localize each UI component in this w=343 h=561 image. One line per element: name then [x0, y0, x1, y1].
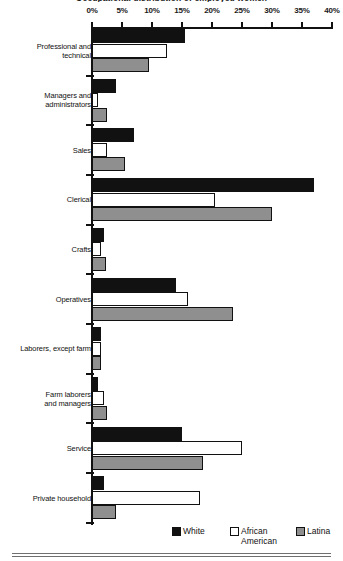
category-axis-tick: [86, 323, 94, 325]
category-label: Laborers, except farm: [1, 344, 91, 353]
category-axis-tick: [86, 522, 94, 524]
x-axis-tick: [271, 22, 273, 29]
legend-swatch-latina: [296, 527, 305, 536]
legend-swatch-aa: [230, 527, 239, 536]
category-label: Service: [1, 444, 91, 453]
x-axis-tick-label: 25%: [234, 6, 249, 15]
legend-item[interactable]: White: [172, 527, 205, 537]
chart-title: Occupational distribution of employed wo…: [0, 0, 343, 2]
legend-item[interactable]: Latina: [296, 527, 330, 537]
bar-white: [92, 476, 104, 490]
x-axis-tick-labels: 0%5%10%15%20%25%30%35%40%: [92, 6, 332, 18]
bar-white: [92, 228, 104, 242]
bar-white: [92, 377, 98, 391]
bar-white: [92, 128, 134, 142]
x-axis-tick: [121, 22, 123, 29]
category-axis-tick: [86, 422, 94, 424]
x-axis-tick: [241, 22, 243, 29]
bar-white: [92, 427, 182, 441]
x-axis-tick-label: 15%: [174, 6, 189, 15]
x-axis-tick-label: 35%: [294, 6, 309, 15]
legend-swatch-white: [172, 527, 181, 536]
x-axis-tick-label: 20%: [204, 6, 219, 15]
bar-aa: [92, 44, 167, 58]
legend-label: African American: [241, 527, 277, 546]
bar-aa: [92, 292, 188, 306]
category-axis-tick: [86, 472, 94, 474]
category-label: Operatives: [1, 295, 91, 304]
bar-white: [92, 278, 176, 292]
bar-group: Private household: [0, 475, 343, 525]
bar-group: Managers andadministrators: [0, 78, 343, 128]
x-axis-tick: [91, 22, 93, 29]
chart-legend: WhiteAfrican AmericanLatina: [172, 527, 340, 555]
x-axis-tick-label: 30%: [264, 6, 279, 15]
bar-aa: [92, 491, 200, 505]
category-axis-tick: [86, 124, 94, 126]
bar-white: [92, 79, 116, 93]
category-axis-tick: [86, 224, 94, 226]
bar-group: Clerical: [0, 177, 343, 227]
bottom-rule-2: [12, 556, 331, 557]
category-label: Private household: [1, 494, 91, 503]
category-axis-tick: [86, 75, 94, 77]
bar-aa: [92, 342, 101, 356]
bar-latina: [92, 58, 149, 72]
category-label: Farm laborersand managers: [1, 390, 91, 408]
bar-white: [92, 327, 101, 341]
x-axis-tick-label: 0%: [86, 6, 97, 15]
bar-group: Service: [0, 426, 343, 476]
x-axis-tick: [151, 22, 153, 29]
bar-group: Crafts: [0, 227, 343, 277]
bar-aa: [92, 441, 242, 455]
x-axis-tick-label: 40%: [324, 6, 339, 15]
bar-latina: [92, 406, 107, 420]
category-label: Crafts: [1, 245, 91, 254]
x-axis-tick: [331, 22, 333, 29]
bar-latina: [92, 257, 106, 271]
bar-latina: [92, 456, 203, 470]
legend-item[interactable]: African American: [230, 527, 277, 546]
bar-aa: [92, 143, 107, 157]
occupational-distribution-chart: Occupational distribution of employed wo…: [0, 0, 343, 561]
category-label: Professional andtechnical: [1, 42, 91, 60]
x-axis-tick-label: 5%: [116, 6, 127, 15]
x-axis-tick-label: 10%: [144, 6, 159, 15]
category-axis-tick: [86, 174, 94, 176]
bottom-rule-1: [12, 553, 331, 554]
bar-white: [92, 29, 185, 43]
category-label: Managers andadministrators: [1, 91, 91, 109]
bar-group: Laborers, except farm: [0, 326, 343, 376]
category-label: Sales: [1, 146, 91, 155]
category-axis-tick: [86, 373, 94, 375]
category-label: Clerical: [1, 195, 91, 204]
category-axis-tick: [86, 273, 94, 275]
bar-group: Farm laborersand managers: [0, 376, 343, 426]
bar-latina: [92, 157, 125, 171]
x-axis-tick: [211, 22, 213, 29]
bar-aa: [92, 193, 215, 207]
x-axis-tick: [301, 22, 303, 29]
bar-aa: [92, 391, 104, 405]
bar-group: Sales: [0, 127, 343, 177]
bar-white: [92, 178, 314, 192]
bar-aa: [92, 93, 98, 107]
bar-aa: [92, 242, 101, 256]
bar-latina: [92, 108, 107, 122]
bar-latina: [92, 207, 272, 221]
bar-latina: [92, 505, 116, 519]
bar-group: Operatives: [0, 277, 343, 327]
legend-label: White: [183, 527, 205, 537]
legend-label: Latina: [307, 527, 330, 537]
x-axis-tick: [181, 22, 183, 29]
bar-group: Professional andtechnical: [0, 28, 343, 78]
bar-latina: [92, 356, 101, 370]
bar-latina: [92, 307, 233, 321]
